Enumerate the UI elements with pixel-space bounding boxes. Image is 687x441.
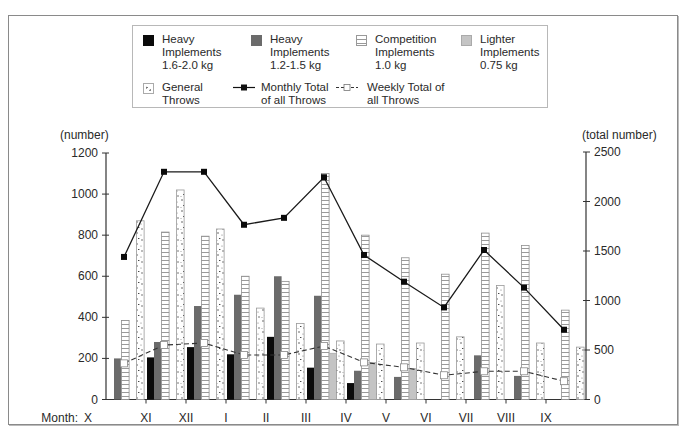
left-tick-label: 1000 (71, 187, 98, 201)
bar (347, 383, 355, 399)
monthly-total-marker (161, 169, 167, 175)
bar (274, 276, 282, 399)
bar (537, 343, 545, 399)
weekly-total-marker (361, 359, 368, 366)
x-tick-label: V (382, 411, 390, 425)
right-tick-label: 0 (594, 393, 601, 407)
bar (514, 376, 522, 400)
x-tick-label: VII (459, 411, 474, 425)
bar (257, 308, 265, 399)
weekly-total-marker (201, 340, 208, 347)
monthly-total-marker (241, 222, 247, 228)
right-tick-label: 1000 (594, 294, 621, 308)
left-tick-label: 200 (78, 351, 98, 365)
weekly-total-marker (401, 364, 408, 371)
bar (162, 232, 170, 399)
bar (562, 310, 570, 399)
x-tick-label: I (224, 411, 227, 425)
left-tick-label: 1200 (71, 146, 98, 160)
weekly-total-marker (161, 342, 168, 349)
bar (202, 236, 210, 399)
x-tick-label: XI (140, 411, 151, 425)
bars (114, 174, 584, 400)
right-tick-label: 1500 (594, 244, 621, 258)
bar (354, 371, 362, 400)
bar (522, 245, 530, 399)
bar (474, 355, 482, 399)
monthly-total-marker (441, 304, 447, 310)
monthly-total-marker (561, 327, 567, 333)
left-tick-label: 800 (78, 228, 98, 242)
bar (242, 276, 250, 399)
left-tick-label: 0 (91, 393, 98, 407)
bar (442, 274, 450, 399)
monthly-total-marker (361, 252, 367, 258)
weekly-total-marker (441, 372, 448, 379)
bar (329, 353, 337, 399)
bar (137, 221, 145, 400)
bar (497, 285, 505, 399)
bar (337, 341, 345, 400)
bar (409, 369, 417, 400)
x-tick-label: VI (420, 411, 431, 425)
bar (307, 368, 315, 400)
weekly-total-marker (481, 368, 488, 375)
bar (369, 363, 377, 400)
weekly-total-marker (561, 378, 568, 385)
bar (227, 354, 235, 399)
weekly-total-marker (521, 368, 528, 375)
bar (147, 357, 155, 399)
monthly-total-marker (201, 169, 207, 175)
bar (297, 323, 305, 399)
x-tick-label: XII (179, 411, 194, 425)
x-tick-label: III (301, 411, 311, 425)
x-tick-label: X (84, 411, 92, 425)
weekly-total-marker (241, 351, 248, 358)
bar (267, 337, 275, 400)
x-tick-label: VIII (497, 411, 515, 425)
bar (417, 343, 425, 399)
monthly-total-marker (521, 285, 527, 291)
right-tick-label: 2500 (594, 145, 621, 159)
x-tick-label: IX (540, 411, 551, 425)
chart-plot-area: 0200400600800100012000500100015002000250… (0, 0, 687, 441)
bar (457, 337, 465, 400)
monthly-total-marker (281, 215, 287, 221)
weekly-total-marker (321, 343, 328, 350)
bar (362, 235, 370, 399)
bar (154, 342, 162, 400)
x-tick-label: IV (340, 411, 351, 425)
left-tick-label: 600 (78, 269, 98, 283)
weekly-total-marker (281, 351, 288, 358)
monthly-total-marker (401, 279, 407, 285)
weekly-total-marker (121, 360, 128, 367)
x-tick-label: II (263, 411, 270, 425)
bar (194, 306, 202, 399)
monthly-total-marker (481, 247, 487, 253)
x-axis-title: Month: (41, 411, 78, 425)
bar (577, 347, 585, 399)
bar (217, 229, 225, 399)
bar (394, 377, 402, 400)
left-tick-label: 400 (78, 310, 98, 324)
bar (177, 190, 185, 400)
bar (234, 295, 242, 400)
bar (377, 344, 385, 399)
right-tick-label: 2000 (594, 195, 621, 209)
monthly-total-marker (121, 254, 127, 260)
bar (322, 174, 330, 400)
bar (282, 281, 290, 399)
right-tick-label: 500 (594, 343, 614, 357)
bar (187, 347, 195, 399)
monthly-total-marker (321, 174, 327, 180)
